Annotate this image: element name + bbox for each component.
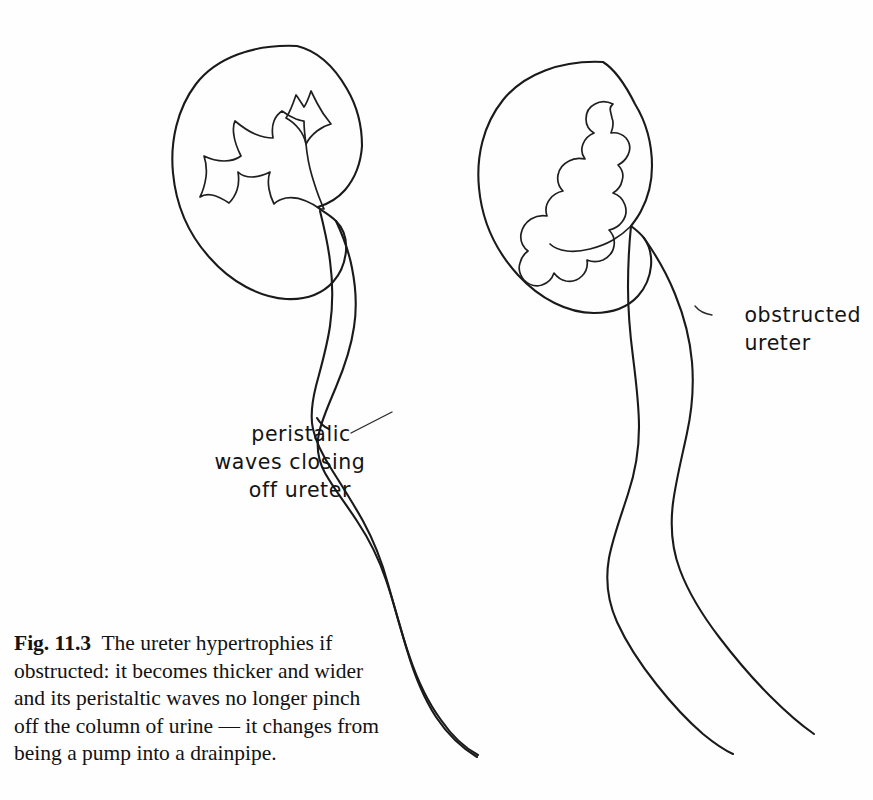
normal-renal-pelvis-outline <box>200 111 324 209</box>
annotation-peristaltic-waves: peristalic waves closing off ureter <box>186 392 351 532</box>
annotation-peristaltic-line-1: peristalic <box>251 422 351 446</box>
figure-number: Fig. 11.3 <box>14 631 91 655</box>
obstructed-kidney-panel <box>478 62 814 754</box>
leader-line-peristaltic <box>351 412 392 433</box>
leader-line-obstructed <box>695 306 712 315</box>
annotation-peristaltic-line-2: waves closing <box>214 450 365 474</box>
annotation-obstructed-line-1: obstructed <box>744 303 861 327</box>
annotation-peristaltic-line-3: off ureter <box>249 478 351 502</box>
annotation-obstructed-ureter: obstructed ureter <box>716 273 861 385</box>
obstructed-calyces-and-pelvis <box>519 102 630 286</box>
figure-caption: Fig. 11.3 The ureter hypertrophies if ob… <box>14 630 386 768</box>
obstructed-renal-pelvis <box>550 226 631 251</box>
caption-gap <box>91 631 101 655</box>
obstructed-kidney-outline <box>478 62 652 313</box>
annotation-obstructed-line-2: ureter <box>744 331 810 355</box>
figure-page: peristalic waves closing off ureter obst… <box>0 0 873 800</box>
